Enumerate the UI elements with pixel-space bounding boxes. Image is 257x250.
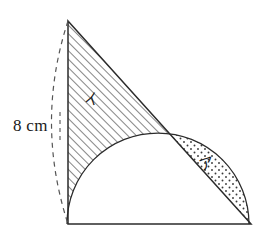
geometry-figure: 8 cm イ ア (0, 0, 257, 250)
dimension-label-height: 8 cm (13, 117, 48, 134)
